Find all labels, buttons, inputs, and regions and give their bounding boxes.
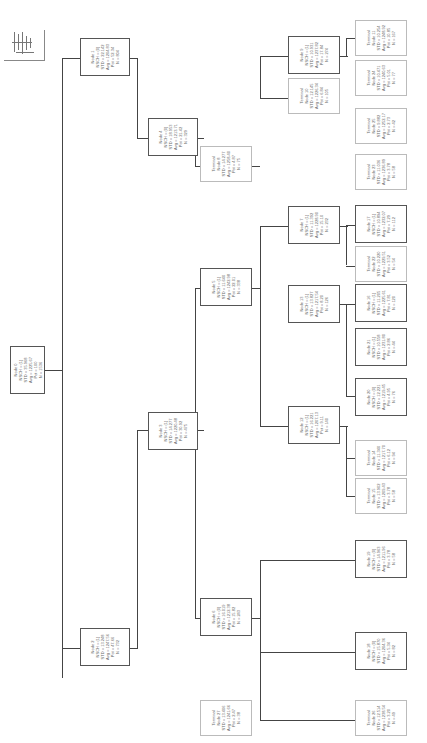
node-text: TerminalNode 11STD = 10.254Avg = 1248.92… [366,25,396,51]
node-line: N = 804 [115,44,120,70]
tree-node-1[interactable]: Node 1NSCH = (0)STD = 22.142Avg = 1204.8… [80,38,130,76]
node-text: Node 3NSCH = (1)STD = 14.277Avg = 1220.4… [158,418,188,444]
node-text: Node 13NSCH = (1)STD = 13.827Avg = 1217.… [299,291,329,317]
tree-connector [260,720,355,721]
terminal-node-15[interactable]: TerminalNode 15STD = 13.902Avg = 1209.43… [355,478,407,514]
node-line: N = 105 [324,83,329,109]
tree-connector [62,648,80,649]
node-line: N = 732 [115,634,120,660]
node-line: N = 120 [391,290,396,316]
node-line: N = 274 [324,42,329,68]
terminal-node-22[interactable]: TerminalNode 22STD = 10.220Avg = 1229.51… [355,246,407,282]
tree-node-7[interactable]: Node 7NSCH = (1)STD = 11.392Avg = 1228.9… [288,206,340,244]
terminal-node-26[interactable]: TerminalNode 26STD = 12.514Avg = 1238.54… [355,700,407,736]
terminal-node-8[interactable]: TerminalNode 8STD = 14.277Avg = 1258.40P… [200,146,252,182]
node-text: Node 17NSCH = (1)STD = 10.894Avg = 1232.… [366,211,396,237]
tree-connector [130,648,138,649]
node-line: N = 232 [324,212,329,238]
tree-node-5[interactable]: Node 5NSCH = (1)STD = 11.640Avg = 1242.9… [200,268,252,306]
node-line: N = 94 [391,445,396,471]
tree-connector [260,56,261,98]
node-text: Node 4NSCH = (0)STD = 18.953Avg = 1213.7… [158,124,188,150]
node-text: Node 5NSCH = (1)STD = 11.640Avg = 1242.9… [211,274,241,300]
tree-node-16[interactable]: Node 16NSCH = (1)STD = 11.205Avg = 1225.… [355,284,407,322]
node-line: N = 49 [391,705,396,731]
node-line: N = 140 [324,412,329,438]
terminal-node-24[interactable]: TerminalNode 24STD = 10.471Avg = 1240.63… [355,60,407,96]
node-text: Node 1NSCH = (0)STD = 22.142Avg = 1204.8… [90,44,120,70]
tree-node-17[interactable]: Node 17NSCH = (1)STD = 10.894Avg = 1232.… [355,205,407,243]
node-line: Node 0 [13,357,18,383]
thumbnail-overview[interactable] [4,30,45,61]
terminal-node-23[interactable]: TerminalNode 23STD = 11.036Avg = 1236.89… [355,154,407,190]
node-line: N = 54 [391,251,396,277]
node-text: TerminalNode 26STD = 12.514Avg = 1238.54… [366,705,396,731]
node-text: TerminalNode 10STD = 12.145Avg = 1226.34… [299,83,329,109]
tree-node-4[interactable]: Node 4NSCH = (0)STD = 18.953Avg = 1213.7… [148,118,198,156]
tree-node-13[interactable]: Node 13NSCH = (1)STD = 13.827Avg = 1217.… [288,285,340,323]
node-text: TerminalNode 8STD = 14.277Avg = 1258.40P… [211,151,241,177]
tree-connector [260,226,288,227]
terminal-node-25[interactable]: TerminalNode 25STD = 9.882Avg = 1252.17P… [355,108,407,144]
terminal-node-10[interactable]: TerminalNode 10STD = 12.145Avg = 1226.34… [288,78,340,114]
node-text: Node 19NSCH = (0)STD = 14.963Avg = 1211.… [366,546,396,572]
node-text: Node 16NSCH = (1)STD = 11.205Avg = 1225.… [366,290,396,316]
tree-connector [252,288,260,289]
tree-node-3[interactable]: Node 3NSCH = (1)STD = 14.277Avg = 1220.4… [148,412,198,450]
tree-node-2[interactable]: Node 2NSCH = (1)STD = 13.248Avg = 1247.5… [80,628,130,666]
node-line: N = 82 [391,638,396,664]
node-line: N = 58 [391,546,396,572]
tree-connector [260,560,261,720]
tree-connector [260,652,355,653]
tree-connector [195,288,196,618]
node-line: N = 77 [391,65,396,91]
tree-connector [346,38,347,56]
tree-node-20[interactable]: Node 20NSCH = (0)STD = 12.221Avg = 1219.… [355,378,407,416]
node-text: TerminalNode 27STD = 13.406Avg = 1241.66… [211,705,241,731]
node-text: Node 20NSCH = (0)STD = 12.221Avg = 1219.… [366,384,396,410]
tree-node-12[interactable]: Node 12NSCH = (1)STD = 16.221Avg = 1207.… [288,406,340,444]
tree-connector [346,38,355,39]
tree-connector [137,430,138,648]
node-line: N = 75 [236,151,241,177]
node-line: N = 243 [236,604,241,630]
node-line: N = 58 [391,159,396,185]
tree-node-6[interactable]: Node 6NSCH = (0)STD = 16.019Avg = 1212.3… [200,598,252,636]
node-text: TerminalNode 14STD = 11.340Avg = 1217.70… [366,445,396,471]
tree-node-9[interactable]: Node 9NSCH = (1)STD = 10.931Avg = 1237.8… [288,36,340,74]
tree-node-19[interactable]: Node 19NSCH = (0)STD = 14.963Avg = 1211.… [355,540,407,578]
node-line: Pct = 100 [33,357,38,383]
node-text: Node 0NSCH = (1)STD = 35.968Avg = 1225.6… [13,357,43,383]
node-text: Node 21NSCH = (1)STD = 10.558Avg = 1231.… [366,334,396,360]
tree-connector [260,426,288,427]
node-line: N = 44 [391,334,396,360]
terminal-node-11[interactable]: TerminalNode 11STD = 10.254Avg = 1248.92… [355,20,407,56]
node-text: Node 6NSCH = (0)STD = 16.019Avg = 1212.3… [211,604,241,630]
tree-node-0[interactable]: Node 0NSCH = (1)STD = 35.968Avg = 1225.6… [10,346,45,394]
tree-connector [346,426,347,496]
tree-node-18[interactable]: Node 18NSCH = (0)STD = 15.870Avg = 1204.… [355,632,407,670]
tree-connector [260,56,288,57]
node-line: N = 58 [391,483,396,509]
node-line: N = 475 [183,418,188,444]
node-text: Node 12NSCH = (1)STD = 16.221Avg = 1207.… [299,412,329,438]
tree-node-21[interactable]: Node 21NSCH = (1)STD = 10.558Avg = 1231.… [355,328,407,366]
terminal-node-27[interactable]: TerminalNode 27STD = 13.406Avg = 1241.66… [200,700,252,736]
tree-connector [137,138,148,139]
tree-connector [346,225,355,226]
node-line: N = 167 [391,25,396,51]
node-text: Node 7NSCH = (1)STD = 11.392Avg = 1228.9… [299,212,329,238]
tree-connector [62,58,80,59]
tree-connector [137,430,148,431]
tree-connector [62,58,63,678]
terminal-node-14[interactable]: TerminalNode 14STD = 11.340Avg = 1217.70… [355,440,407,476]
node-text: TerminalNode 25STD = 9.882Avg = 1252.17P… [366,113,396,139]
tree-connector [260,560,355,561]
node-text: Node 2NSCH = (1)STD = 13.248Avg = 1247.5… [90,634,120,660]
tree-connector [346,266,355,267]
node-line: N = 126 [324,291,329,317]
node-line: N = 42 [391,113,396,139]
node-text: TerminalNode 15STD = 13.902Avg = 1209.43… [366,483,396,509]
tree-connector [346,496,355,497]
tree-connector [198,138,204,139]
